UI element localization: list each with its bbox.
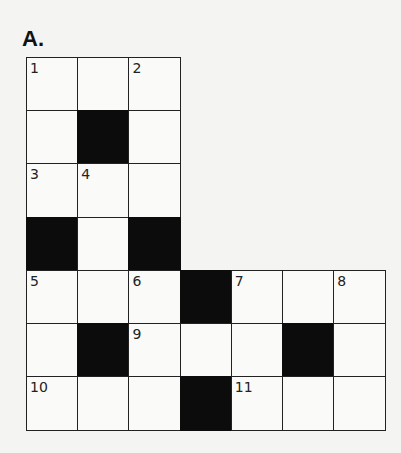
grid-cell[interactable] — [77, 57, 130, 112]
grid-cell[interactable] — [26, 110, 79, 165]
grid-cell[interactable]: 11 — [231, 376, 284, 431]
black-cell — [180, 270, 233, 325]
black-cell — [77, 323, 130, 378]
black-cell — [180, 376, 233, 431]
grid-cell[interactable]: 4 — [77, 163, 130, 218]
grid-cell[interactable] — [128, 163, 181, 218]
grid-cell[interactable] — [128, 376, 181, 431]
grid-cell[interactable] — [180, 323, 233, 378]
grid-cell[interactable]: 10 — [26, 376, 79, 431]
clue-number: 6 — [132, 274, 141, 288]
grid-cell[interactable]: 8 — [333, 270, 386, 325]
clue-number: 1 — [30, 61, 39, 75]
clue-number: 7 — [235, 274, 244, 288]
clue-number: 11 — [235, 380, 253, 394]
grid-cell[interactable]: 1 — [26, 57, 79, 112]
grid-cell[interactable]: 5 — [26, 270, 79, 325]
grid-cell[interactable] — [333, 323, 386, 378]
clue-number: 5 — [30, 274, 39, 288]
grid-cell[interactable] — [128, 110, 181, 165]
clue-number: 9 — [132, 327, 141, 341]
grid-cell[interactable] — [333, 376, 386, 431]
clue-number: 10 — [30, 380, 48, 394]
clue-number: 8 — [337, 274, 346, 288]
clue-number: 3 — [30, 167, 39, 181]
black-cell — [77, 110, 130, 165]
black-cell — [26, 217, 79, 272]
grid-cell[interactable] — [282, 376, 335, 431]
black-cell — [282, 323, 335, 378]
clue-number: 4 — [81, 167, 90, 181]
grid-cell[interactable]: 2 — [128, 57, 181, 112]
grid-cell[interactable] — [231, 323, 284, 378]
grid-cell[interactable] — [282, 270, 335, 325]
grid-cell[interactable]: 9 — [128, 323, 181, 378]
grid-cell[interactable] — [77, 376, 130, 431]
black-cell — [128, 217, 181, 272]
grid-cell[interactable]: 7 — [231, 270, 284, 325]
grid-cell[interactable] — [26, 323, 79, 378]
grid-cell[interactable]: 3 — [26, 163, 79, 218]
grid-cell[interactable]: 6 — [128, 270, 181, 325]
clue-number: 2 — [132, 61, 141, 75]
grid-cell[interactable] — [77, 270, 130, 325]
grid-cell[interactable] — [77, 217, 130, 272]
puzzle-label: A. — [22, 26, 44, 52]
